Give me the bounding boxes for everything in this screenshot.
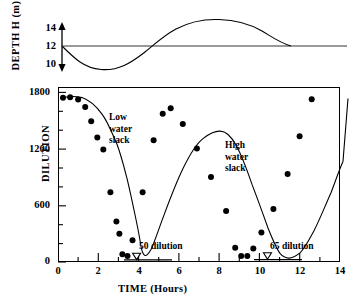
- high-water-slack-annotation: High water slack: [225, 140, 248, 175]
- dilution-50-label: 50 dilution: [139, 241, 183, 251]
- data-point: [297, 133, 303, 139]
- data-point: [250, 246, 256, 252]
- data-point: [82, 104, 88, 110]
- dilution-curve: [63, 96, 348, 258]
- data-point: [88, 118, 94, 124]
- data-point: [67, 94, 73, 100]
- dilution-chart-svg: [0, 0, 353, 303]
- low-water-slack-annotation: Low water slack: [109, 112, 132, 147]
- data-point: [232, 245, 238, 251]
- data-point: [168, 105, 174, 111]
- data-point: [244, 253, 250, 259]
- data-point: [309, 96, 315, 102]
- data-point: [270, 206, 276, 212]
- high-water-slack-line2: water: [225, 152, 248, 164]
- low-water-slack-line2: water: [109, 124, 132, 136]
- data-point: [75, 97, 81, 103]
- low-water-slack-line1: Low: [109, 112, 132, 124]
- open-triangle-down-icon: [264, 253, 272, 259]
- data-point: [258, 229, 264, 235]
- data-point: [140, 189, 146, 195]
- y-axis-ticks: [58, 92, 66, 262]
- data-point: [60, 95, 66, 101]
- data-point: [194, 146, 200, 152]
- data-point: [285, 171, 291, 177]
- data-point: [208, 174, 214, 180]
- dilution-65-label: 65 dilution: [270, 241, 314, 251]
- figure-root: DEPTH H (m) 14 12 10 DILUTION 1800 1200 …: [0, 0, 353, 303]
- low-water-slack-line3: slack: [109, 135, 132, 147]
- data-point: [113, 219, 119, 225]
- open-triangle-down-icon: [133, 253, 141, 259]
- data-point: [119, 251, 125, 257]
- data-point: [116, 231, 122, 237]
- data-point-markers: [60, 94, 315, 259]
- data-point: [107, 189, 113, 195]
- data-point: [238, 253, 244, 259]
- x-axis-ticks: [78, 253, 320, 262]
- high-water-slack-line3: slack: [225, 163, 248, 175]
- data-point: [100, 147, 106, 153]
- data-point: [160, 111, 166, 117]
- data-point: [94, 134, 100, 140]
- data-point: [223, 208, 229, 214]
- data-point: [125, 253, 131, 259]
- data-point: [180, 121, 186, 127]
- data-point: [130, 237, 136, 243]
- data-point: [151, 137, 157, 143]
- high-water-slack-line1: High: [225, 140, 248, 152]
